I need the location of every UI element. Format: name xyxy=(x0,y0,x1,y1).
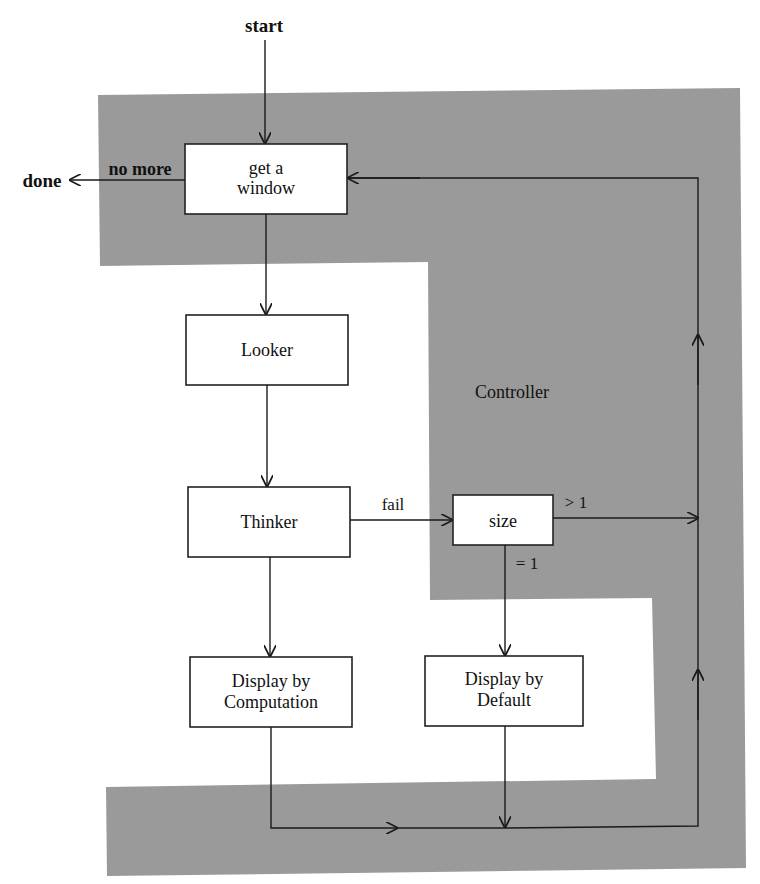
no-more-label: no more xyxy=(108,159,171,179)
svg-text:get a: get a xyxy=(249,158,283,178)
controller-label: Controller xyxy=(475,382,549,402)
svg-text:Default: Default xyxy=(477,690,531,710)
svg-text:Looker: Looker xyxy=(241,340,293,360)
svg-text:Display by: Display by xyxy=(465,669,544,689)
svg-text:window: window xyxy=(237,178,295,198)
node-display-default[interactable]: Display by Default xyxy=(425,656,583,726)
eq1-label: = 1 xyxy=(516,554,538,573)
svg-text:Thinker: Thinker xyxy=(241,512,298,532)
done-label: done xyxy=(22,170,61,191)
svg-text:Computation: Computation xyxy=(224,692,318,712)
gt1-label: > 1 xyxy=(565,493,587,512)
node-display-computation[interactable]: Display by Computation xyxy=(190,657,352,727)
node-looker[interactable]: Looker xyxy=(186,315,348,385)
fail-label: fail xyxy=(382,495,405,514)
svg-text:Display by: Display by xyxy=(232,671,311,691)
start-label: start xyxy=(245,15,284,36)
node-size[interactable]: size xyxy=(453,495,553,545)
node-get-window[interactable]: get a window xyxy=(185,144,347,214)
flowchart-diagram: Controller start get a window no more do… xyxy=(0,0,760,884)
svg-text:size: size xyxy=(489,511,517,531)
node-thinker[interactable]: Thinker xyxy=(188,487,350,557)
